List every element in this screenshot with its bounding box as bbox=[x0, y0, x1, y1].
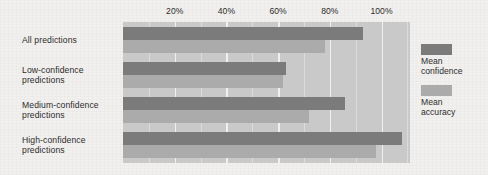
bar-mean-accuracy[interactable] bbox=[123, 40, 325, 53]
bar-group bbox=[123, 97, 410, 123]
category-label: All predictions bbox=[22, 35, 126, 45]
legend-swatch bbox=[421, 44, 452, 55]
bar-mean-accuracy[interactable] bbox=[123, 110, 309, 123]
category-label-line: All predictions bbox=[22, 35, 126, 45]
bar-group bbox=[123, 27, 410, 53]
bar-group bbox=[123, 132, 410, 158]
bar-mean-accuracy[interactable] bbox=[123, 145, 376, 158]
category-label-line: High-confidence bbox=[22, 135, 126, 145]
bar-mean-confidence[interactable] bbox=[123, 132, 402, 145]
plot-area bbox=[123, 22, 410, 163]
category-label: Low-confidencepredictions bbox=[22, 65, 126, 85]
axis-tick-label: 80% bbox=[321, 6, 338, 16]
chart-legend: MeanconfidenceMeanaccuracy bbox=[421, 44, 483, 126]
legend-label: Meanaccuracy bbox=[421, 98, 483, 117]
bar-chart: All predictionsLow-confidencepredictions… bbox=[0, 0, 488, 175]
value-axis: 20%40%60%80%100% bbox=[123, 6, 410, 20]
bar-group bbox=[123, 62, 410, 88]
category-label-line: predictions bbox=[22, 75, 126, 85]
bar-mean-confidence[interactable] bbox=[123, 62, 286, 75]
legend-label: Meanconfidence bbox=[421, 57, 483, 76]
category-label-line: predictions bbox=[22, 145, 126, 155]
axis-tick-label: 20% bbox=[166, 6, 183, 16]
bar-mean-accuracy[interactable] bbox=[123, 75, 283, 88]
axis-tick-label: 40% bbox=[218, 6, 235, 16]
category-label: High-confidencepredictions bbox=[22, 135, 126, 155]
bar-mean-confidence[interactable] bbox=[123, 27, 363, 40]
category-label-line: Medium-confidence bbox=[22, 100, 126, 110]
category-label-line: predictions bbox=[22, 110, 126, 120]
legend-item[interactable]: Meanconfidence bbox=[421, 44, 483, 76]
category-label: Medium-confidencepredictions bbox=[22, 100, 126, 120]
axis-tick-label: 60% bbox=[270, 6, 287, 16]
category-label-line: Low-confidence bbox=[22, 65, 126, 75]
axis-tick-label: 100% bbox=[371, 6, 393, 16]
legend-item[interactable]: Meanaccuracy bbox=[421, 85, 483, 117]
bar-mean-confidence[interactable] bbox=[123, 97, 345, 110]
category-axis: All predictionsLow-confidencepredictions… bbox=[8, 22, 120, 163]
legend-label-line: confidence bbox=[421, 67, 483, 77]
legend-swatch bbox=[421, 85, 452, 96]
legend-label-line: accuracy bbox=[421, 108, 483, 118]
